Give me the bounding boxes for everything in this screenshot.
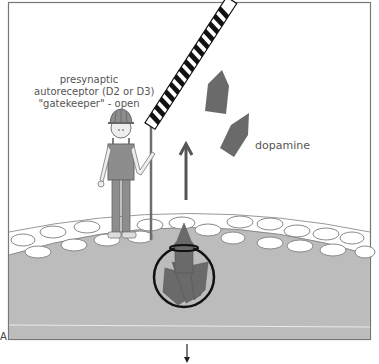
diagram: presynaptic autoreceptor (D2 or D3) "gat… (0, 0, 379, 364)
autoreceptor-annotation: presynaptic autoreceptor (D2 or D3) "gat… (34, 74, 144, 110)
continuation-arrow-down-icon (184, 344, 190, 363)
panel-letter: A (0, 331, 7, 343)
annotation-line-1: presynaptic (34, 74, 144, 86)
dopamine-label: dopamine (255, 140, 310, 152)
annotation-line-3: "gatekeeper" - open (34, 98, 144, 110)
annotation-line-2: autoreceptor (D2 or D3) (34, 86, 144, 98)
